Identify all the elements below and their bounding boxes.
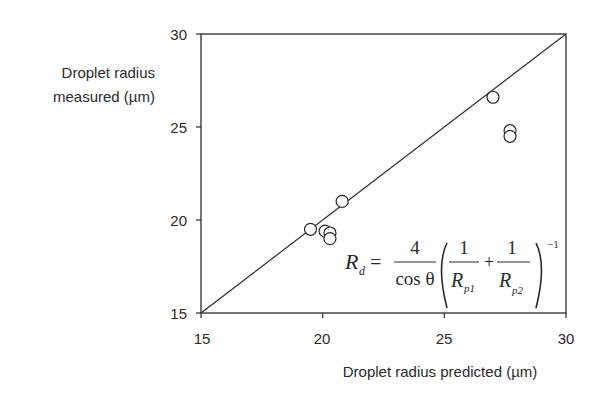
formula-numerator: 4 [410, 237, 420, 258]
term1-denominator: R [450, 269, 463, 291]
y-tick-25: 25 [170, 119, 187, 136]
data-point-circle [324, 233, 336, 245]
term2-denominator: R [498, 269, 511, 291]
term1-sub: p1 [463, 282, 475, 294]
data-points [305, 91, 517, 244]
y-axis-label-line1: Droplet radius [62, 64, 155, 81]
y-tick-30: 30 [170, 26, 187, 43]
y-tick-15: 15 [170, 305, 187, 322]
identity-line [201, 34, 566, 313]
left-paren [442, 243, 448, 308]
data-point-circle [336, 195, 348, 207]
formula-annotation: R d = 4 cos θ 1 R p1 + 1 R p2 −1 [344, 237, 559, 308]
formula-exponent: −1 [547, 238, 559, 250]
term2-sub: p2 [511, 284, 524, 296]
x-tick-30: 30 [558, 330, 575, 347]
x-axis-label: Droplet radius predicted (µm) [343, 363, 538, 380]
term2-numerator: 1 [507, 237, 517, 258]
x-tick-15: 15 [194, 330, 211, 347]
right-paren [536, 243, 542, 308]
data-point-circle [305, 223, 317, 235]
scatter-chart: 30 25 20 15 15 20 25 30 Droplet radius m… [0, 0, 606, 402]
formula-denominator: cos θ [395, 268, 434, 289]
x-tick-25: 25 [436, 330, 453, 347]
formula-equals: = [370, 251, 381, 273]
term1-numerator: 1 [459, 237, 469, 258]
y-axis-label-line2: measured (µm) [53, 88, 155, 105]
formula-plus: + [484, 252, 494, 272]
data-point-circle [487, 91, 499, 103]
data-point-circle [504, 130, 516, 142]
formula-lhs: R [344, 249, 359, 274]
x-tick-20: 20 [314, 330, 331, 347]
formula-lhs-sub: d [359, 264, 366, 278]
y-tick-20: 20 [170, 212, 187, 229]
